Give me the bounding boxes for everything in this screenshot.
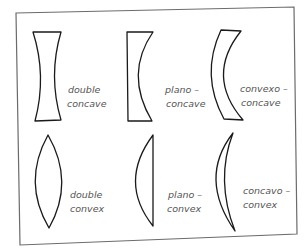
label-double-concave-1: double <box>68 84 101 95</box>
label-plano-convex-1: plano – <box>167 189 202 200</box>
lens-diagram: double concave plano – concave convexo –… <box>0 0 307 252</box>
label-plano-concave-2: concave <box>166 98 206 109</box>
label-convexo-concave-2: concave <box>241 97 281 108</box>
label-concavo-convex-2: convex <box>243 199 278 210</box>
label-double-convex-1: double <box>70 189 103 200</box>
label-double-concave-2: concave <box>67 98 107 109</box>
label-convexo-concave-1: convexo – <box>240 83 288 94</box>
label-concavo-convex-1: concavo – <box>243 185 291 196</box>
label-plano-concave-1: plano – <box>164 84 199 95</box>
label-double-convex-2: convex <box>70 203 105 214</box>
label-plano-convex-2: convex <box>167 203 202 214</box>
